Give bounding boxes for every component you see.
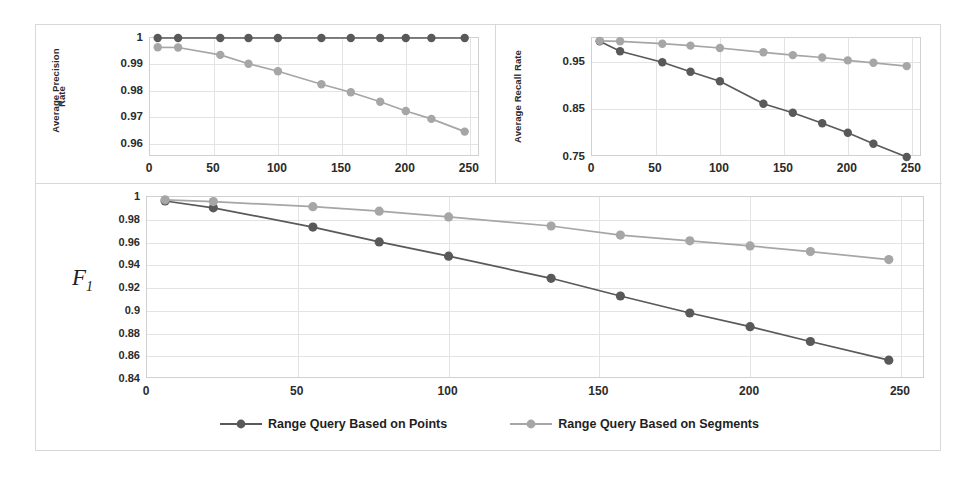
y-tick-label: 0.9: [125, 304, 140, 316]
x-tick-label: 200: [837, 161, 857, 175]
f1-plot-area: [146, 196, 924, 378]
series-marker: [686, 41, 694, 49]
series-marker: [402, 34, 410, 42]
series-marker: [616, 291, 625, 300]
series-marker: [461, 34, 469, 42]
f1-series-layer: [147, 197, 925, 379]
y-tick-label: 1: [134, 190, 140, 202]
series-marker: [658, 58, 666, 66]
series-line: [600, 41, 907, 66]
y-tick-label: 1: [137, 31, 143, 43]
series-marker: [869, 140, 877, 148]
series-marker: [596, 37, 604, 45]
series-marker: [806, 337, 815, 346]
recall-y-axis-title: Average Recall Rate: [512, 47, 523, 147]
series-marker: [789, 109, 797, 117]
x-tick-label: 0: [143, 384, 150, 398]
x-tick-label: 150: [773, 161, 793, 175]
x-tick-label: 0: [146, 161, 153, 175]
y-tick-label: 0.85: [563, 102, 585, 114]
y-tick-label: 0.95: [563, 55, 585, 67]
series-marker: [685, 308, 694, 317]
series-marker: [308, 202, 317, 211]
series-marker: [376, 98, 384, 106]
series-marker: [616, 231, 625, 240]
f1-axis-title: F1: [72, 265, 93, 295]
series-marker: [844, 129, 852, 137]
series-line: [158, 47, 465, 131]
series-marker: [616, 47, 624, 55]
y-tick-label: 0.99: [121, 57, 143, 69]
series-marker: [216, 51, 224, 59]
series-marker: [244, 34, 252, 42]
y-tick-label: 0.86: [119, 349, 140, 361]
series-marker: [317, 80, 325, 88]
x-tick-label: 100: [709, 161, 729, 175]
series-marker: [216, 34, 224, 42]
series-marker: [658, 40, 666, 48]
series-line: [165, 200, 889, 260]
y-tick-label: 0.88: [119, 327, 140, 339]
series-marker: [427, 34, 435, 42]
chart-average-precision-rate: Average Precision Rate 10.990.980.970.96…: [36, 25, 495, 183]
series-marker: [884, 255, 893, 264]
series-marker: [308, 223, 317, 232]
recall-series-layer: [592, 38, 922, 157]
series-marker: [427, 115, 435, 123]
series-marker: [347, 34, 355, 42]
series-marker: [376, 34, 384, 42]
series-marker: [686, 68, 694, 76]
series-marker: [174, 43, 182, 51]
f1-axis-title-text: F: [72, 265, 86, 290]
series-marker: [154, 34, 162, 42]
x-tick-label: 100: [438, 384, 458, 398]
legend-item[interactable]: Range Query Based on Points: [219, 417, 447, 431]
x-tick-label: 200: [739, 384, 759, 398]
series-marker: [806, 247, 815, 256]
series-marker: [759, 100, 767, 108]
series-marker: [903, 153, 911, 161]
figure-frame: Average Precision Rate 10.990.980.970.96…: [35, 24, 941, 451]
series-marker: [746, 322, 755, 331]
series-line: [165, 201, 889, 360]
series-marker: [884, 356, 893, 365]
top-charts-row: Average Precision Rate 10.990.980.970.96…: [36, 25, 942, 183]
y-tick-label: 0.97: [121, 110, 143, 122]
series-marker: [547, 274, 556, 283]
chart-average-recall-rate: Average Recall Rate 0.950.850.75 0501001…: [496, 25, 942, 183]
y-tick-label: 0.96: [121, 137, 143, 149]
series-marker: [444, 212, 453, 221]
series-marker: [154, 43, 162, 51]
x-tick-label: 150: [331, 161, 351, 175]
series-marker: [844, 56, 852, 64]
y-tick-label: 0.98: [119, 213, 140, 225]
legend-item[interactable]: Range Query Based on Segments: [509, 417, 759, 431]
y-tick-label: 0.96: [119, 236, 140, 248]
series-line: [600, 41, 907, 157]
series-marker: [274, 67, 282, 75]
chart-legend: Range Query Based on PointsRange Query B…: [36, 407, 942, 441]
series-marker: [317, 34, 325, 42]
series-marker: [716, 44, 724, 52]
f1-axis-title-subscript: 1: [86, 279, 93, 294]
legend-marker-icon: [219, 417, 263, 431]
legend-marker-icon: [509, 417, 553, 431]
x-tick-label: 200: [395, 161, 415, 175]
x-tick-label: 250: [459, 161, 479, 175]
series-marker: [402, 107, 410, 115]
series-marker: [347, 88, 355, 96]
series-marker: [869, 59, 877, 67]
precision-plot-area: [149, 37, 479, 156]
series-marker: [746, 241, 755, 250]
precision-y-axis-title-line2: Rate: [56, 67, 67, 127]
y-tick-label: 0.75: [563, 150, 585, 162]
series-marker: [375, 237, 384, 246]
x-tick-label: 50: [648, 161, 661, 175]
series-marker: [375, 207, 384, 216]
x-tick-label: 250: [890, 384, 910, 398]
series-marker: [685, 236, 694, 245]
series-marker: [461, 127, 469, 135]
x-tick-label: 150: [588, 384, 608, 398]
series-marker: [616, 37, 624, 45]
series-marker: [789, 51, 797, 59]
